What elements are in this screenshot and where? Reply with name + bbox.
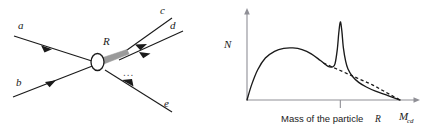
- x-axis-label-group: M cd: [398, 110, 414, 125]
- line-d: [119, 31, 183, 60]
- physics-figure: a b c d e ...: [0, 0, 432, 129]
- spectrum-curve-solid: [247, 22, 400, 100]
- arrowhead-b: [45, 80, 56, 87]
- tick-caption-symbol: R: [374, 114, 381, 124]
- arrowhead-e: [122, 79, 134, 87]
- scattering-diagram-panel: a b c d e ...: [13, 4, 183, 112]
- background-curve-dashed: [324, 63, 401, 100]
- mass-spectrum-panel: N M cd Mass of the particle R: [223, 8, 420, 125]
- x-axis-label-subscript: cd: [407, 117, 414, 125]
- y-axis-label: N: [223, 38, 232, 50]
- label-a: a: [18, 19, 24, 31]
- label-e: e: [164, 97, 169, 109]
- label-b: b: [16, 76, 22, 88]
- x-axis-arrowhead: [414, 97, 421, 103]
- outgoing-line-e: e: [105, 70, 172, 112]
- arrowhead-c: [135, 44, 147, 50]
- line-e: [105, 70, 172, 112]
- label-d: d: [170, 19, 176, 31]
- ellipsis-dots: ...: [123, 67, 134, 78]
- label-c: c: [160, 4, 165, 16]
- line-a: [14, 36, 95, 62]
- y-axis-arrowhead: [244, 8, 250, 15]
- tick-caption-group: Mass of the particle R: [281, 113, 381, 124]
- tick-caption-text: Mass of the particle: [281, 113, 363, 124]
- label-resonance-R: R: [102, 35, 110, 47]
- line-c: [120, 18, 172, 55]
- arrowhead-d: [139, 52, 151, 58]
- incoming-line-a: a: [14, 19, 95, 62]
- incoming-line-b: b: [13, 65, 95, 97]
- interaction-vertex-blob: [91, 54, 104, 71]
